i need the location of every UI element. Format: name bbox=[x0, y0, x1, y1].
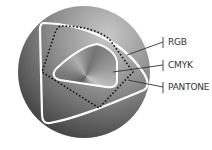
cmyk-leader-line bbox=[113, 65, 163, 72]
rgb-label: RGB bbox=[168, 37, 187, 47]
color-gamut-diagram: RGB CMYK PANTONE bbox=[0, 0, 212, 150]
cmyk-label: CMYK bbox=[168, 60, 193, 70]
pantone-label: PANTONE bbox=[168, 82, 209, 92]
gamut-overlay bbox=[0, 0, 212, 150]
rgb-leader-line bbox=[127, 42, 163, 55]
cmyk-gamut-outline bbox=[54, 44, 117, 87]
pantone-leader-line bbox=[128, 80, 163, 87]
